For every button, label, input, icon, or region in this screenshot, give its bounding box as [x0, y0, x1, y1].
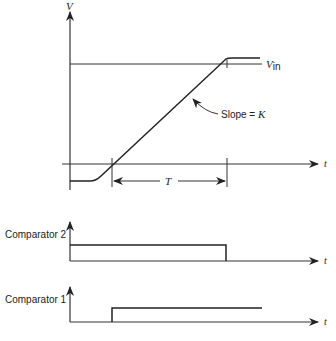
vin-label: Vin: [266, 58, 281, 72]
interval-label: T: [165, 175, 172, 187]
comparator1-label: Comparator 1: [5, 294, 67, 305]
top-plot: V t Vin T Slope = K: [62, 0, 327, 190]
comparator2-t-label: t: [324, 255, 327, 266]
comparator2-waveform: [70, 245, 226, 261]
comparator1-t-label: t: [324, 316, 327, 327]
dual-slope-timing-diagram: V t Vin T Slope = K t Comparator 2: [0, 0, 336, 341]
comparator2-plot: t Comparator 2: [5, 222, 327, 266]
comparator1-waveform: [112, 308, 262, 322]
v-axis-label: V: [66, 0, 74, 12]
slope-leader: [193, 99, 218, 114]
t-axis-label: t: [324, 158, 327, 169]
slope-label: Slope = K: [221, 108, 266, 120]
comparator1-plot: t Comparator 1: [5, 287, 327, 327]
comparator2-label: Comparator 2: [5, 229, 67, 240]
